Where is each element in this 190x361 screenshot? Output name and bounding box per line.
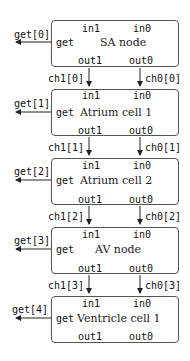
port-get: get xyxy=(56,38,74,48)
port-in0: in0 xyxy=(133,299,151,309)
node-title: Atrium cell 2 xyxy=(80,175,152,187)
ch0-label: ch0[1] xyxy=(145,143,181,153)
get-label: get[2] xyxy=(14,167,50,177)
port-in0: in0 xyxy=(133,230,151,240)
port-out0: out0 xyxy=(129,195,153,205)
ch0-label: ch0[0] xyxy=(145,74,181,84)
get-label: get[0] xyxy=(14,30,50,40)
port-out0: out0 xyxy=(129,56,153,66)
port-in1: in1 xyxy=(82,91,100,101)
node-title: SA node xyxy=(100,37,146,49)
port-in1: in1 xyxy=(82,230,100,240)
ch1-label: ch1[3] xyxy=(48,281,84,291)
port-out1: out1 xyxy=(78,264,102,274)
ch0-label: ch0[3] xyxy=(145,281,181,291)
port-in1: in1 xyxy=(82,161,100,171)
port-in0: in0 xyxy=(133,24,151,34)
ch1-label: ch1[1] xyxy=(48,143,84,153)
port-get: get xyxy=(56,245,74,255)
get-label: get[3] xyxy=(14,236,50,246)
port-out0: out0 xyxy=(129,264,153,274)
node-title: Atrium cell 1 xyxy=(80,107,152,119)
port-in1: in1 xyxy=(82,299,100,309)
port-out1: out1 xyxy=(78,126,102,136)
port-out1: out1 xyxy=(78,332,102,342)
port-get: get xyxy=(56,176,74,186)
node-title: AV node xyxy=(95,244,141,256)
port-get: get xyxy=(56,314,74,324)
port-get: get xyxy=(56,108,74,118)
port-in0: in0 xyxy=(133,161,151,171)
port-out0: out0 xyxy=(129,126,153,136)
ch0-label: ch0[2] xyxy=(145,212,181,222)
port-out1: out1 xyxy=(78,56,102,66)
get-label: get[1] xyxy=(14,99,50,109)
port-in1: in1 xyxy=(82,24,100,34)
port-in0: in0 xyxy=(133,91,151,101)
get-label: get[4] xyxy=(12,305,48,315)
ch1-label: ch1[2] xyxy=(48,212,84,222)
port-out0: out0 xyxy=(129,332,153,342)
port-out1: out1 xyxy=(78,195,102,205)
ch1-label: ch1[0] xyxy=(48,74,84,84)
node-title: Ventricle cell 1 xyxy=(77,313,161,325)
